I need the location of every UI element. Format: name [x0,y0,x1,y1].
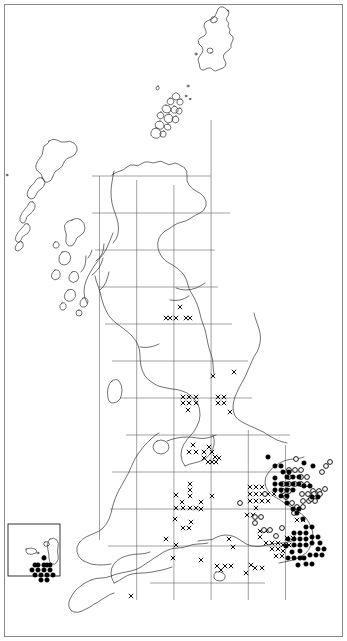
map-marker-cross [199,558,203,562]
map-marker-filled-circle [284,544,289,549]
map-marker-filled-circle [311,464,316,469]
map-marker-cross [168,316,172,320]
map-marker-cross [280,554,284,558]
map-marker-cross [274,554,278,558]
map-marker-cross [270,547,274,551]
map-marker-cross [270,541,274,545]
map-marker-filled-circle [298,543,303,548]
map-marker-filled-circle [308,553,313,558]
map-marker-cross [227,537,231,541]
map-marker-cross [222,395,226,399]
map-marker-filled-circle [304,562,309,567]
map-marker-filled-circle [45,578,50,583]
map-marker-filled-circle [290,550,295,555]
map-marker-cross [254,506,258,510]
map-marker-cross [199,500,203,504]
map-marker-open-circle [274,534,279,539]
map-marker-cross [281,549,285,553]
map-marker-open-circle [306,492,311,497]
map-marker-filled-circle [273,464,278,469]
map-marker-open-circle [293,468,298,473]
map-marker-filled-circle [310,495,315,500]
map-marker-cross [202,450,206,454]
coastline-orkney [151,85,191,138]
map-marker-filled-circle [310,525,315,530]
coastline-shetland [195,7,233,71]
map-marker-open-circle [324,464,329,469]
map-marker-open-circle [300,492,305,497]
map-marker-cross [187,450,191,454]
map-marker-filled-circle [297,507,302,512]
map-marker-cross [244,571,248,575]
map-marker-cross [181,526,185,530]
map-marker-filled-circle [304,537,309,542]
map-marker-filled-circle [297,482,302,487]
map-marker-cross [207,445,211,449]
map-marker-filled-circle [291,482,296,487]
map-marker-filled-circle [292,543,297,548]
map-marker-cross [276,547,280,551]
map-marker-filled-circle [291,488,296,493]
map-marker-open-circle [328,460,333,465]
coastline-skye-inner-hebrides [51,219,88,317]
map-marker-cross [188,482,192,486]
map-marker-filled-circle [285,494,290,499]
map-marker-cross [191,443,195,447]
map-marker-open-circle [280,526,285,531]
map-marker-filled-circle [286,556,291,561]
map-marker-cross [174,506,178,510]
map-marker-filled-circle [310,541,315,546]
map-marker-filled-circle [279,488,284,493]
map-marker-cross [181,395,185,399]
map-marker-cross [213,455,217,459]
map-marker-cross [194,506,198,510]
map-marker-filled-circle [273,482,278,487]
map-marker-open-circle [259,515,264,520]
map-marker-filled-circle [316,535,321,540]
series-filled-circle-markers [30,455,327,583]
map-marker-open-circle [268,528,273,533]
map-marker-filled-circle [281,470,286,475]
map-marker-cross [171,556,175,560]
distribution-map-figure [0,0,347,641]
map-marker-filled-circle [318,541,323,546]
map-marker-filled-circle [296,563,301,568]
map-marker-cross [186,408,190,412]
map-marker-open-circle [294,457,299,462]
map-marker-filled-circle [285,488,290,493]
map-marker-cross [181,506,185,510]
map-marker-filled-circle [298,531,303,536]
map-marker-cross [194,450,198,454]
map-marker-cross [188,506,192,510]
map-marker-cross [129,594,133,598]
map-marker-cross [194,395,198,399]
map-marker-filled-circle [302,461,307,466]
map-marker-filled-circle [310,535,315,540]
map-marker-filled-circle [42,568,47,573]
map-marker-cross [184,316,188,320]
map-marker-filled-circle [316,547,321,552]
map-marker-filled-circle [273,476,278,481]
map-marker-filled-circle [285,482,290,487]
map-marker-cross [188,316,192,320]
map-marker-filled-circle [279,464,284,469]
map-marker-filled-circle [302,484,307,489]
map-marker-filled-circle [320,553,325,558]
map-marker-cross [228,410,232,414]
map-marker-filled-circle [322,547,327,552]
map-marker-cross [295,518,299,522]
map-marker-filled-circle [51,573,56,578]
map-marker-cross [258,535,262,539]
map-marker-filled-circle [304,525,309,530]
map-marker-cross [173,517,177,521]
map-marker-cross [254,492,258,496]
map-marker-cross [231,545,235,549]
map-marker-open-circle [323,487,328,492]
map-marker-cross [260,566,264,570]
map-marker-filled-circle [36,568,41,573]
map-marker-filled-circle [292,556,297,561]
map-marker-filled-circle [298,549,303,554]
map-marker-filled-circle [279,494,284,499]
map-canvas [0,0,347,641]
map-marker-cross [260,499,264,503]
